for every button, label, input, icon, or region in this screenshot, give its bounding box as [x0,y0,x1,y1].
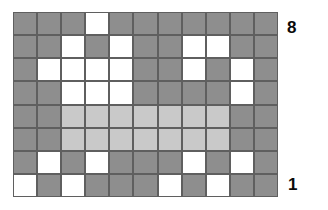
heatmap-cell [254,174,278,197]
heatmap-cell [13,12,37,35]
heatmap-cell [109,128,133,151]
heatmap-cell [85,81,109,104]
heatmap-cell [230,35,254,58]
heatmap-cell [13,128,37,151]
heatmap-cell [109,35,133,58]
heatmap-cell [230,58,254,81]
heatmap-cell [254,12,278,35]
heatmap-cell [230,105,254,128]
heatmap-cell [206,35,230,58]
heatmap-cell [182,151,206,174]
heatmap-cell [133,58,157,81]
axis-label-bottom: 1 [288,176,297,193]
heatmap-cell [230,174,254,197]
heatmap-cell [254,151,278,174]
heatmap-cell [85,35,109,58]
heatmap-cell [61,58,85,81]
heatmap-cell [13,58,37,81]
heatmap-cell [61,105,85,128]
heatmap-cell [37,58,61,81]
heatmap-cell [158,12,182,35]
heatmap-cell [13,105,37,128]
heatmap-cell [158,128,182,151]
heatmap-cell [133,128,157,151]
heatmap-cell [158,105,182,128]
heatmap-cell [254,81,278,104]
heatmap-cell [230,81,254,104]
heatmap-cell [13,151,37,174]
heatmap-cell [182,128,206,151]
heatmap-cell [206,128,230,151]
heatmap-cell [182,58,206,81]
heatmap-cell [37,12,61,35]
heatmap-cell [133,81,157,104]
heatmap-cell [158,151,182,174]
heatmap-cell [109,105,133,128]
heatmap-cell [230,12,254,35]
heatmap-cell [37,35,61,58]
heatmap-cell [37,128,61,151]
heatmap-cell [254,58,278,81]
heatmap-cell [61,12,85,35]
heatmap-cell [254,128,278,151]
heatmap-cell [230,128,254,151]
heatmap-cell [158,81,182,104]
heatmap-figure: 8 1 [0,0,328,210]
heatmap-cell [109,151,133,174]
heatmap-cell [37,105,61,128]
heatmap-cell [61,151,85,174]
heatmap-cell [13,81,37,104]
heatmap-cell [133,12,157,35]
heatmap-cell [13,35,37,58]
heatmap-grid [13,12,278,197]
heatmap-cell [206,81,230,104]
heatmap-cell [85,105,109,128]
heatmap-cell [206,58,230,81]
axis-label-top: 8 [287,19,296,36]
heatmap-cell [133,151,157,174]
heatmap-cell [182,105,206,128]
heatmap-cell [85,12,109,35]
heatmap-cell [206,105,230,128]
heatmap-cell [254,35,278,58]
heatmap-cell [37,81,61,104]
heatmap-cell [85,58,109,81]
heatmap-cell [61,81,85,104]
heatmap-cell [109,58,133,81]
heatmap-cell [254,105,278,128]
heatmap-cell [133,105,157,128]
heatmap-cell [182,81,206,104]
heatmap-cell [206,174,230,197]
heatmap-cell [182,12,206,35]
heatmap-cell [158,174,182,197]
heatmap-cell [133,174,157,197]
heatmap-cell [109,12,133,35]
heatmap-cell [85,128,109,151]
heatmap-cell [230,151,254,174]
heatmap-cell [13,174,37,197]
heatmap-cell [206,151,230,174]
heatmap-cell [109,81,133,104]
heatmap-cell [158,58,182,81]
heatmap-cell [133,35,157,58]
heatmap-cell [37,151,61,174]
heatmap-cell [206,12,230,35]
heatmap-cell [182,35,206,58]
heatmap-cell [158,35,182,58]
heatmap-cell [37,174,61,197]
heatmap-cell [85,151,109,174]
heatmap-cell [61,35,85,58]
heatmap-cell [109,174,133,197]
heatmap-cell [61,128,85,151]
heatmap-cell [182,174,206,197]
heatmap-cell [61,174,85,197]
heatmap-cell [85,174,109,197]
